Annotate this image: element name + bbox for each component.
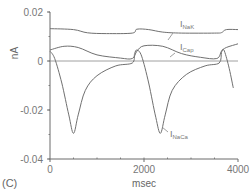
panel-label: (C) (2, 177, 17, 189)
leader-line (168, 33, 173, 40)
series-line-nak (50, 29, 238, 34)
y-axis-label: nA (9, 47, 20, 60)
curves (50, 29, 238, 134)
chart: 0.020-0.02-0.04020004000 msecnA(C)INaKIC… (0, 0, 250, 191)
series-label-nak: INaK (180, 19, 194, 30)
series-line-naca (50, 49, 233, 133)
y-tick-label: 0 (37, 56, 43, 67)
leader-line (170, 53, 175, 57)
y-tick-label: -0.04 (20, 154, 43, 165)
x-axis-label: msec (132, 178, 156, 189)
leader-line (162, 127, 168, 132)
series-label-cap: ICap (180, 42, 194, 53)
series-line-cap (50, 44, 238, 59)
y-tick-label: 0.02 (24, 7, 44, 18)
x-tick-label: 4000 (227, 164, 250, 175)
x-tick-label: 2000 (133, 164, 156, 175)
x-tick-label: 0 (47, 164, 53, 175)
series-label-naca: INaCa (170, 129, 189, 140)
y-tick-label: -0.02 (20, 105, 43, 116)
